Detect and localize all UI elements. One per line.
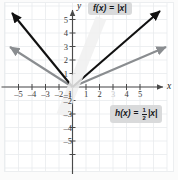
y-tick-neg-5: –5: [64, 137, 73, 146]
y-tick-4: 4: [64, 29, 68, 38]
x-tick-neg-3: –3: [41, 90, 50, 99]
x-tick-1: 1: [84, 90, 88, 99]
h-label-name: h(x): [115, 109, 131, 118]
y-tick-2: 2: [64, 56, 68, 65]
y-tick-neg-3: –3: [64, 110, 73, 119]
fraction-denominator: 2: [142, 114, 147, 121]
curve-h: [10, 47, 166, 87]
h-label-fraction: 1 2: [142, 107, 147, 121]
y-tick-5: 5: [64, 15, 68, 24]
y-tick-3: 3: [64, 42, 68, 51]
fraction-numerator: 1: [142, 107, 147, 113]
y-tick-neg-2: –2: [64, 96, 73, 105]
h-function-label: h(x) = 1 2 |x|: [110, 105, 162, 123]
y-tick-neg-4: –4: [64, 123, 73, 132]
h-label-equals: =: [134, 109, 139, 118]
absolute-value-graph-figure: –5 –4 –3 –2 –1 1 2 3 4 5 5 4 3 2 1 –1 –2…: [0, 0, 178, 180]
y-tick-1: 1: [64, 69, 68, 78]
y-axis-label: y: [77, 2, 81, 12]
curve-f: [12, 11, 160, 87]
x-tick-2: 2: [97, 90, 101, 99]
x-tick-neg-2: –2: [55, 90, 64, 99]
x-tick-neg-5: –5: [14, 90, 23, 99]
f-label-equals: =: [109, 4, 114, 13]
x-tick-4: 4: [124, 90, 128, 99]
x-axis-label: x: [167, 82, 171, 92]
f-label-name: f(x): [93, 4, 106, 13]
f-function-label: f(x) = |x|: [88, 2, 132, 15]
x-tick-5: 5: [138, 90, 142, 99]
x-tick-3: 3: [111, 90, 115, 99]
function-curves: [0, 0, 178, 180]
h-label-expression: |x|: [148, 109, 157, 118]
f-label-expression: |x|: [117, 4, 126, 13]
x-tick-neg-4: –4: [28, 90, 37, 99]
